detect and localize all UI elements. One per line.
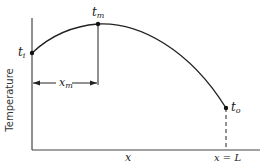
max-point <box>96 22 100 26</box>
xm-label: xm <box>59 76 73 90</box>
end-label: x = L <box>214 152 241 163</box>
y-axis-label: Temperature <box>4 68 15 132</box>
temperature-profile-diagram: ti tm to xm x x = L Temperature <box>0 0 260 166</box>
arrowhead-right-icon <box>90 81 97 86</box>
inlet-point <box>30 51 34 55</box>
arrowhead-left-icon <box>33 81 40 86</box>
temperature-curve <box>32 24 226 108</box>
outlet-point <box>224 106 228 110</box>
max-label: tm <box>92 5 105 20</box>
outlet-label: to <box>231 100 241 115</box>
x-axis-label: x <box>125 151 132 164</box>
inlet-label: ti <box>18 45 26 60</box>
